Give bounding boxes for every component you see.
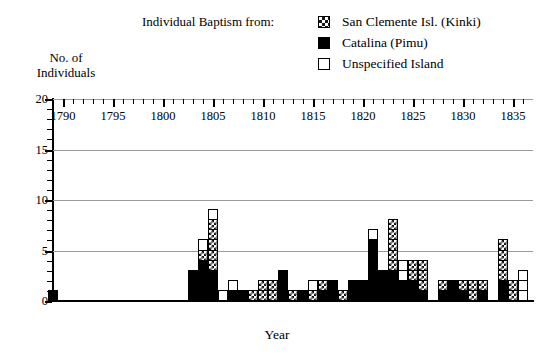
checker-swatch-icon [318,16,330,28]
bar-1832 [478,281,487,301]
y-tick-minor [47,180,52,181]
x-tick-label: 1795 [101,109,126,124]
bar-segment [408,290,417,301]
x-tick-minor [403,99,404,104]
bar-1812 [278,271,287,301]
bar-segment [218,290,227,301]
y-tick-minor [47,271,52,272]
bar-segment [48,290,57,301]
x-tick-label: 1835 [501,109,526,124]
bar-segment [228,280,237,291]
y-tick-minor [47,170,52,171]
bar-segment [408,280,417,291]
bar-segment [518,270,527,281]
bar-segment [498,280,507,291]
bar-segment [388,239,397,250]
bar-segment [418,270,427,281]
bar-segment [378,280,387,291]
bar-segment [498,290,507,301]
bar-1822 [378,240,387,301]
bar-segment [398,270,407,281]
bar-1805 [208,210,217,301]
x-tick-minor [133,99,134,104]
x-tick-minor [273,99,274,104]
x-tick-minor [93,99,94,104]
bar-segment [278,280,287,291]
bar-segment [518,290,527,301]
bar-1834 [498,240,507,301]
bar-segment [268,290,277,301]
x-tick-major [463,99,465,107]
x-tick-minor [393,99,394,104]
bar-1831 [468,281,477,301]
bar-segment [198,250,207,261]
bar-segment [388,250,397,261]
y-tick-label: 10 [36,193,49,208]
bar-segment [388,229,397,240]
bar-1835 [508,281,517,301]
y-axis-title-line1: No. of [18,50,114,65]
bar-segment [298,290,307,301]
legend-item-label: Unspecified Island [342,56,444,71]
bar-segment [208,219,217,230]
y-tick-label: 15 [36,142,49,157]
y-tick-minor [47,210,52,211]
bar-1811 [268,281,277,301]
x-tick-minor [383,99,384,104]
bar-segment [478,290,487,301]
bar-segment [308,290,317,301]
x-tick-minor [143,99,144,104]
bar-segment [458,280,467,291]
bar-1829 [448,281,457,301]
x-tick-minor [123,99,124,104]
bar-segment [258,280,267,291]
bar-segment [208,270,217,281]
bar-segment [418,290,427,301]
bar-segment [498,239,507,250]
bar-1813 [288,291,297,301]
plot-area: 05101520 1790179518001805181018151820182… [53,99,533,301]
bar-1816 [318,281,327,301]
bar-segment [378,270,387,281]
bar-segment [198,280,207,291]
x-tick-minor [303,99,304,104]
bar-segment [468,280,477,291]
legend-item-unspecified: Unspecified Island [318,54,444,71]
bar-segment [388,260,397,271]
x-tick-minor [473,99,474,104]
bar-segment [258,290,267,301]
y-tick-label: 20 [36,92,49,107]
x-tick-minor [183,99,184,104]
x-tick-minor [493,99,494,104]
bar-1815 [308,281,317,301]
bar-segment [208,209,217,220]
y-tick-minor [47,129,52,130]
x-tick-minor [373,99,374,104]
bar-segment [388,270,397,281]
x-tick-minor [343,99,344,104]
bar-1823 [388,220,397,301]
x-tick-minor [253,99,254,104]
x-tick-minor [103,99,104,104]
x-tick-major [113,99,115,107]
x-tick-major [163,99,165,107]
x-tick-label: 1825 [401,109,426,124]
bar-segment [268,280,277,291]
bar-segment [208,260,217,271]
legend-item-catalina: Catalina (Pimu) [318,33,428,50]
solid-swatch-icon [318,37,330,49]
x-tick-minor [193,99,194,104]
bar-segment [348,290,357,301]
bar-segment [318,290,327,301]
y-tick-minor [47,160,52,161]
x-tick-major [63,99,65,107]
x-tick-label: 1805 [201,109,226,124]
legend-item-label: San Clemente Isl. (Kinki) [342,14,481,29]
bar-segment [188,280,197,291]
x-tick-minor [283,99,284,104]
x-tick-minor [423,99,424,104]
bar-segment [368,290,377,301]
x-tick-label: 1790 [51,109,76,124]
x-axis-title: Year [0,327,554,343]
bar-segment [198,270,207,281]
